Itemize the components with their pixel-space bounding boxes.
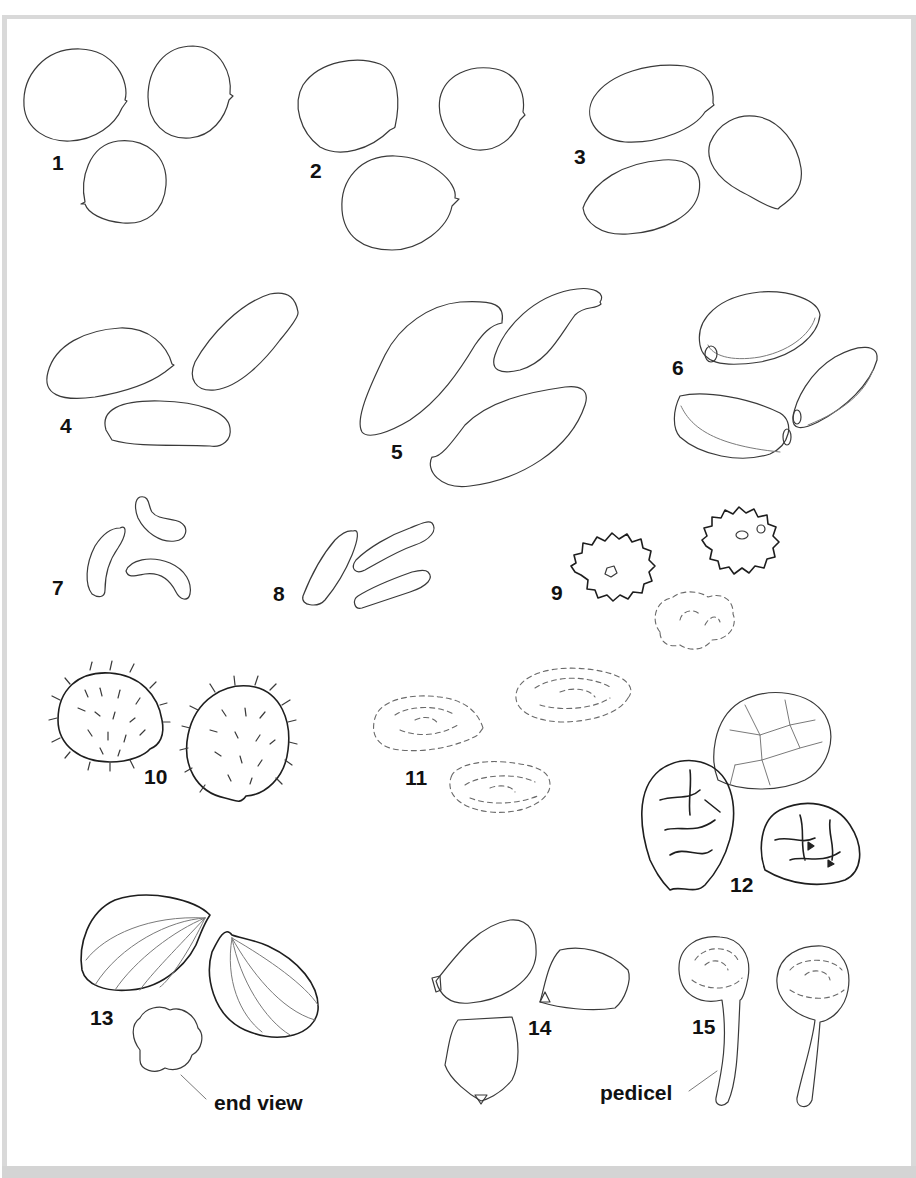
specimen-8-drawing	[303, 522, 434, 608]
specimen-2-drawing	[298, 60, 525, 250]
end-view-annotation: end view	[214, 1092, 303, 1113]
specimen-label-7: 7	[52, 577, 64, 598]
specimen-label-10: 10	[144, 766, 167, 787]
specimen-label-11: 11	[405, 767, 427, 788]
specimen-label-2: 2	[310, 160, 322, 181]
specimen-11-drawing	[374, 668, 631, 812]
specimen-13-drawing	[81, 895, 318, 1099]
specimen-9-drawing	[571, 507, 779, 649]
specimen-label-12: 12	[730, 874, 753, 895]
specimen-label-13: 13	[90, 1007, 113, 1028]
specimen-1-drawing	[24, 46, 233, 223]
specimen-label-6: 6	[672, 357, 684, 378]
specimen-label-14: 14	[528, 1017, 551, 1038]
specimen-14-drawing	[432, 920, 629, 1104]
specimen-3-drawing	[583, 65, 801, 234]
specimen-12-drawing	[642, 693, 860, 890]
specimen-4-drawing	[47, 293, 298, 446]
specimen-label-5: 5	[391, 441, 403, 462]
specimen-10-drawing	[49, 661, 297, 801]
pedicel-annotation: pedicel	[600, 1082, 672, 1103]
specimen-6-drawing	[674, 292, 877, 458]
specimen-label-9: 9	[551, 582, 563, 603]
specimen-label-15: 15	[692, 1016, 715, 1037]
specimen-label-1: 1	[52, 152, 64, 173]
specimen-label-3: 3	[574, 146, 586, 167]
specimen-label-8: 8	[273, 583, 285, 604]
specimen-7-drawing	[87, 497, 190, 599]
specimen-label-4: 4	[60, 415, 72, 436]
